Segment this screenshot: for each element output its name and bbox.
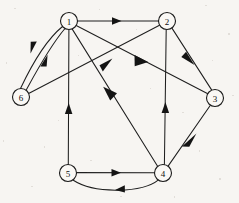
arrowhead-6-1 [40,55,47,67]
edge-line-2-3 [172,28,212,90]
arrowhead-1-6 [31,42,37,54]
node-6[interactable]: 6 [13,89,30,106]
arrowhead-4-5 [115,185,125,192]
edge-4-to-5 [73,180,158,193]
edge-layer [21,17,212,192]
node-3[interactable]: 3 [207,90,224,107]
edge-4-to-2 [162,30,170,165]
node-4[interactable]: 4 [155,165,172,182]
edge-line-4-2 [164,30,166,165]
edge-2-to-3 [172,28,212,90]
edge-5-to-1 [65,30,73,165]
edge-4-to-3 [168,106,210,167]
edge-5-to-4 [77,169,155,177]
node-4-label: 4 [161,169,166,179]
edge-line-5-1 [68,30,69,165]
edge-4-to-1 [72,29,157,166]
node-5[interactable]: 5 [60,165,77,182]
directed-graph-canvas: 1 2 3 4 5 6 [0,0,239,203]
arrowhead-4-2 [162,102,170,113]
node-1[interactable]: 1 [61,13,78,30]
node-2-label: 2 [165,17,170,27]
arrowhead-5-4 [112,169,122,177]
edge-line-4-5 [73,180,158,190]
edge-line-4-3 [168,106,210,167]
arrowhead-6-2 [100,59,113,72]
edge-1-to-2 [78,17,159,25]
node-3-label: 3 [213,94,218,104]
arrowhead-5-1 [65,103,73,114]
node-5-label: 5 [66,169,71,179]
edge-line-4-1 [72,29,157,166]
node-6-label: 6 [19,93,24,103]
node-2[interactable]: 2 [159,13,176,30]
edge-6-to-1 [27,29,66,90]
arrowhead-1-3 [135,55,149,66]
graph-figure: 1 2 3 4 5 6 [0,0,239,203]
arrowhead-1-2 [112,17,122,25]
node-1-label: 1 [67,17,72,27]
node-layer: 1 2 3 4 5 6 [13,13,224,182]
